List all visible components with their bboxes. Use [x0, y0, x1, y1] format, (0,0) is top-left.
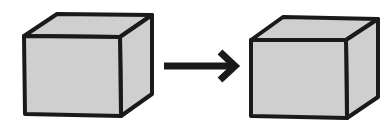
arrow-right-icon — [164, 52, 235, 80]
cube-left-front-face — [24, 36, 121, 116]
diagram-canvas — [0, 0, 388, 133]
cube-right — [251, 17, 378, 118]
cube-right-front-face — [251, 40, 347, 118]
cube-left — [24, 14, 152, 116]
diagram-svg — [0, 0, 388, 133]
